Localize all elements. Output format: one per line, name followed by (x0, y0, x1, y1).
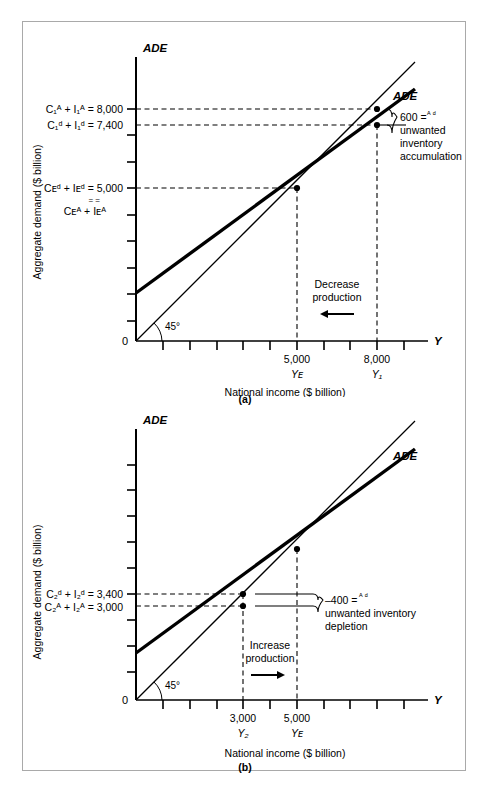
panel-b-ade-line (136, 449, 415, 653)
panel-a-point-equilibrium (294, 185, 300, 191)
panel-a-x-axis-title: Y (434, 335, 443, 347)
panel-b-x-ticks (163, 700, 404, 709)
panel-a-label-equilibrium-actual: Cᴇᴬ + Iᴇᴬ (64, 205, 107, 217)
panel-b-annotation-line3: depletion (325, 620, 368, 632)
panel-a-annotation-amount: 600 = (400, 111, 427, 123)
panel-a-left-arrow-icon (320, 310, 354, 318)
panel-a-xtick-label-0: 5,000 (284, 353, 310, 365)
panel-b-xtick-label-0: 3,000 (230, 712, 256, 724)
panel-b-point-equilibrium (294, 546, 300, 552)
panel-b-x-axis-label: National income ($ billion) (225, 747, 346, 759)
panel-a-xtick-sub-0: Yᴇ (291, 368, 304, 380)
panel-b-y-axis-label: Aggregate demand ($ billion) (31, 525, 43, 660)
panel-b-annotation-line2: unwanted inventory (325, 607, 417, 619)
panel-a-y-ticks (127, 109, 136, 321)
panel-a-xtick-label-1: 8,000 (364, 353, 390, 365)
panel-b-direction-line2: production (245, 652, 294, 664)
panel-a-annotation-line4: accumulation (400, 150, 462, 162)
panel-b-angle-label: 45° (165, 680, 180, 691)
panel-a-annotation-line3: inventory (400, 137, 443, 149)
panel-a-label-actual-high: C₁ᴬ + I₁ᴬ = 8,000 (46, 103, 123, 115)
panel-a-label-equilibrium-desired: Cᴇᵈ + Iᴇᵈ = 5,000 (44, 182, 123, 194)
panel-b-label-actual-low: C₂ᴬ + I₂ᴬ = 3,000 (45, 601, 124, 613)
panel-a-ade-curve-label: ADE (392, 90, 418, 102)
panel-b-annotation-amount: –400 = (325, 594, 357, 606)
panel-a-direction-line1: Decrease (315, 278, 360, 290)
panel-a-ade-line (136, 89, 415, 293)
panel-b-xtick-sub-1: Yᴇ (291, 727, 304, 739)
figure-frame: Aggregate demand ($ billion) ADE Y (22, 21, 466, 771)
panel-a-label-equilibrium-identity: = = (88, 196, 100, 205)
panel-a-origin-label: 0 (122, 335, 128, 347)
panel-a-annotation-superscripts: ᴬ ᵈ (426, 110, 436, 119)
panel-b-guide-lines (136, 549, 297, 700)
panel-b-x-axis-title: Y (434, 694, 443, 706)
panel-b-ade-curve-label: ADE (392, 450, 418, 462)
panel-a-label-desired-high: C₁ᵈ + I₁ᵈ = 7,400 (47, 119, 123, 131)
panel-b-angle-arc (154, 682, 162, 700)
panel-b-point-desired (240, 591, 246, 597)
panel-b-direction-line1: Increase (250, 639, 290, 651)
panel-b-caption: (b) (23, 761, 467, 773)
panel-b: Aggregate demand ($ billion) ADE Y (23, 397, 467, 772)
panel-b-xtick-label-1: 5,000 (284, 712, 310, 724)
panel-a-point-actual (374, 106, 380, 112)
panel-b-chart: Aggregate demand ($ billion) ADE Y (23, 397, 467, 772)
panel-a-y-axis-label: Aggregate demand ($ billion) (31, 145, 43, 280)
panel-a: Aggregate demand ($ billion) ADE Y (23, 22, 467, 397)
panel-b-point-actual (240, 603, 246, 609)
panel-a-45-degree-line (136, 62, 415, 341)
panel-b-right-arrow-icon (251, 671, 285, 679)
panel-a-angle-arc (154, 323, 162, 341)
panel-b-xtick-sub-0: Y₂ (237, 727, 248, 739)
panel-b-origin-label: 0 (122, 694, 128, 706)
panel-b-annotation-superscripts: ᴬ ᵈ (358, 592, 368, 601)
panel-b-annotation-leaders (255, 594, 323, 612)
panel-a-direction-line2: production (312, 291, 361, 303)
panel-a-angle-label: 45° (165, 321, 180, 332)
panel-a-xtick-sub-1: Y₁ (372, 368, 383, 380)
panel-b-label-desired-low: C₂ᵈ + I₂ᵈ = 3,400 (46, 588, 123, 600)
panel-a-y-axis-title: ADE (142, 42, 168, 54)
panel-a-x-ticks (163, 341, 404, 350)
panel-b-y-axis-title: ADE (142, 414, 168, 426)
panel-b-y-ticks (127, 465, 136, 672)
panel-a-annotation-line2: unwanted (400, 124, 446, 136)
panel-a-chart: Aggregate demand ($ billion) ADE Y (23, 22, 467, 397)
